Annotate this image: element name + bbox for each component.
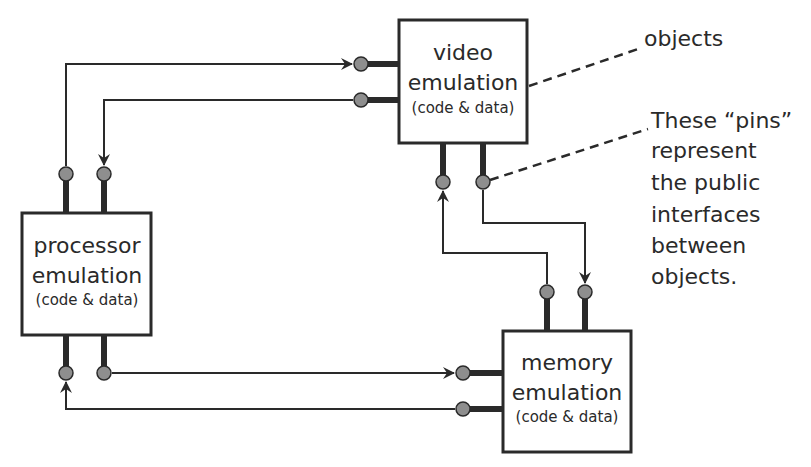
wire-video-to-processor: [104, 100, 353, 165]
pin-video-bottom-left: [436, 175, 450, 189]
wire-video-to-memory: [483, 190, 585, 283]
video-subtitle: emulation: [408, 70, 519, 95]
video-caption: (code & data): [412, 99, 515, 117]
pin-video-bottom-right: [476, 175, 490, 189]
processor-title: processor: [33, 233, 141, 258]
processor-caption: (code & data): [36, 291, 139, 309]
wire-processor-to-video: [66, 64, 352, 166]
video-title: video: [433, 40, 493, 65]
pins-note-line-2: represent: [651, 138, 757, 163]
pin-processor-top-left: [59, 167, 73, 181]
pin-memory-left-bottom: [456, 402, 470, 416]
emulator-object-diagram: video emulation (code & data) processor …: [0, 0, 811, 467]
pin-memory-left-top: [456, 366, 470, 380]
memory-emulation-object: memory emulation (code & data): [503, 331, 631, 452]
pins-note-line-4: interfaces: [651, 202, 761, 227]
pins-note-line-3: the public: [651, 170, 760, 195]
video-emulation-object: video emulation (code & data): [399, 20, 527, 143]
wire-memory-to-processor: [66, 382, 455, 409]
objects-leader-line: [529, 48, 641, 86]
pin-video-left-bottom: [354, 93, 368, 107]
pin-memory-top-right: [578, 285, 592, 299]
pin-video-left-top: [354, 57, 368, 71]
memory-caption: (code & data): [516, 408, 619, 426]
pins-note-line-6: objects.: [651, 264, 737, 289]
memory-subtitle: emulation: [512, 380, 623, 405]
pins-note-line-5: between: [651, 233, 746, 258]
objects-annotation: objects: [644, 26, 723, 51]
pins-annotation: These “pins” represent the public interf…: [650, 108, 792, 289]
processor-emulation-object: processor emulation (code & data): [22, 213, 151, 335]
pin-processor-bottom-left: [59, 366, 73, 380]
wire-memory-to-video: [443, 191, 547, 284]
pin-memory-top-left: [540, 285, 554, 299]
pin-processor-top-right: [97, 167, 111, 181]
processor-subtitle: emulation: [32, 263, 143, 288]
pins-note-line-1: These “pins”: [650, 108, 792, 133]
memory-title: memory: [521, 350, 613, 375]
pin-processor-bottom-right: [97, 366, 111, 380]
